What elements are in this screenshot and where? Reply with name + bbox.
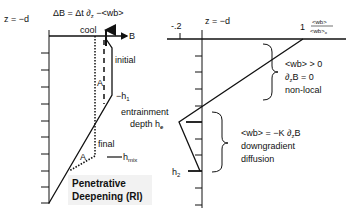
entrainment-label-2: depth he	[130, 119, 164, 130]
b-axis-label: B	[129, 31, 135, 41]
area-lower-label: A	[80, 152, 86, 162]
lower-brace-text-3: diffusion	[241, 154, 274, 164]
lower-brace-text-2: downgradient	[241, 141, 296, 151]
left-z-label: z = −d	[4, 14, 29, 24]
upper-brace-text-1: <wb> > 0	[285, 59, 322, 69]
lower-brace-text-1: <wb> = −K ∂zB	[241, 128, 301, 139]
left-axis-ticks	[41, 53, 49, 203]
final-label: final	[98, 139, 115, 149]
upper-brace-text-2: ∂zB = 0	[285, 72, 314, 83]
right-axis-ticks	[195, 56, 202, 205]
right-z-label: z = −d	[205, 16, 230, 26]
flux-ratio-denominator: <wb>o	[310, 28, 328, 35]
upper-brace-icon	[263, 44, 278, 100]
buoyancy-equation: ΔB = Δt ∂z −<wb>	[53, 8, 124, 19]
right-panel-flux: -.2 z = −d 1 <wb> <wb>o <wb> > 0 ∂zB = 0…	[121, 16, 346, 208]
tick-one-label: 1	[300, 22, 305, 32]
h1-label: −h1	[116, 91, 130, 102]
caption-line-2: Deepening (RI)	[72, 191, 143, 202]
final-profile-dotted	[69, 36, 95, 171]
entrainment-label-1: entrainment	[121, 107, 169, 117]
hmix-label: hmix	[123, 152, 137, 163]
flux-ratio-numerator: <wb>	[312, 19, 327, 25]
caption-line-1: Penetrative	[72, 178, 126, 189]
initial-label: initial	[115, 55, 136, 65]
upper-brace-text-3: non-local	[285, 85, 322, 95]
area-upper-label: A	[97, 78, 103, 88]
mixed-layer-diagram: z = −d ΔB = Δt ∂z −<wb> cool B initial A…	[0, 0, 356, 217]
tick-neg-label: -.2	[171, 21, 182, 31]
lower-brace-icon	[212, 112, 228, 172]
cool-label: cool	[80, 25, 97, 35]
h2-label: h2	[172, 167, 181, 178]
